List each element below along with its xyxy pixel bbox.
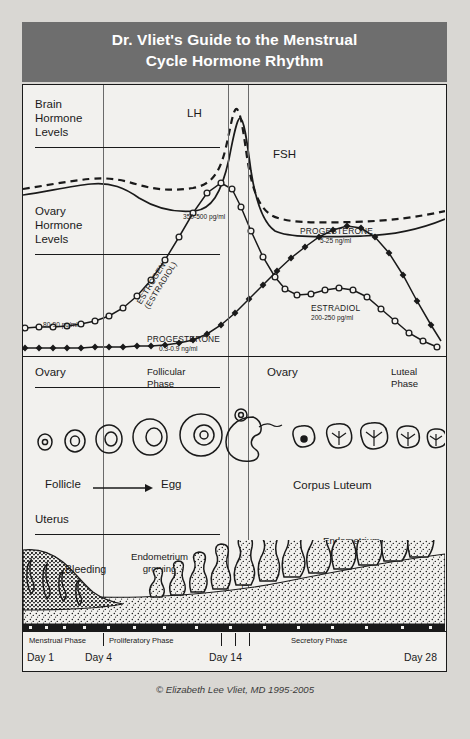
follicle-to-egg-arrow-icon bbox=[93, 482, 155, 494]
estradiol-curve bbox=[25, 183, 437, 347]
page-title: Dr. Vliet's Guide to the Menstrual Cycle… bbox=[22, 29, 447, 71]
phase-tick-ovulation-a bbox=[221, 633, 222, 646]
title-banner: Dr. Vliet's Guide to the Menstrual Cycle… bbox=[22, 22, 447, 82]
uterus-label: Uterus bbox=[35, 512, 69, 526]
progesterone-curve bbox=[25, 226, 441, 348]
day-label-1: Day 1 bbox=[27, 652, 54, 663]
progesterone-low-label: PROGESTERONE bbox=[147, 334, 220, 344]
follicle-label: Follicle bbox=[45, 477, 81, 491]
progesterone-high-label: PROGESTERONE bbox=[300, 226, 373, 236]
day-label-28: Day 28 bbox=[404, 652, 437, 663]
endometrium-diagram bbox=[23, 540, 445, 631]
copyright-notice: © Elizabeth Lee Vliet, MD 1995-2005 bbox=[0, 684, 470, 695]
bleeding-label: Bleeding bbox=[65, 563, 106, 575]
hormone-curves bbox=[23, 85, 445, 357]
ovary-hormone-section-rule bbox=[35, 254, 220, 255]
ovary-label-right: Ovary bbox=[267, 365, 298, 379]
phase-bar: Menstrual Phase Proliferatory Phase Secr… bbox=[23, 631, 446, 671]
luteal-phase-label: Luteal Phase bbox=[391, 366, 418, 390]
phase-tick-day4 bbox=[103, 633, 104, 646]
brain-hormone-levels-label: Brain Hormone Levels bbox=[35, 97, 82, 139]
progesterone-high-value: 5-25 ng/ml bbox=[320, 237, 351, 244]
page-title-line2: Cycle Hormone Rhythm bbox=[22, 50, 447, 71]
ovary-section-rule bbox=[35, 387, 220, 388]
corpus-luteum-label: Corpus Luteum bbox=[293, 478, 372, 492]
estradiol-peak-label: ESTRADIOL bbox=[311, 303, 360, 313]
chart-frame: Brain Hormone Levels LH FSH 350-500 pg/m… bbox=[22, 84, 447, 672]
ovary-hormone-levels-label: Ovary Hormone Levels bbox=[35, 204, 82, 246]
day-label-14: Day 14 bbox=[209, 652, 242, 663]
fsh-label: FSH bbox=[273, 148, 296, 160]
estradiol-baseline-value: 80-90 pg/ml bbox=[43, 321, 78, 328]
day-label-4: Day 4 bbox=[85, 652, 112, 663]
phase-label-proliferatory: Proliferatory Phase bbox=[109, 636, 174, 645]
phase-tick-ovulation-c bbox=[249, 633, 250, 646]
phase-tick-ovulation-b bbox=[235, 633, 236, 646]
follicular-phase-label: Follicular Phase bbox=[147, 366, 185, 390]
ovary-label-left: Ovary bbox=[35, 365, 66, 379]
phase-label-menstrual: Menstrual Phase bbox=[29, 636, 86, 645]
phase-label-secretory: Secretory Phase bbox=[291, 636, 347, 645]
lh-label: LH bbox=[187, 107, 202, 119]
page-title-line1: Dr. Vliet's Guide to the Menstrual bbox=[22, 29, 447, 50]
fsh-curve bbox=[23, 109, 445, 222]
egg-label: Egg bbox=[161, 477, 181, 491]
lh-peak-value: 350-500 pg/ml bbox=[183, 213, 225, 220]
lh-curve bbox=[23, 118, 445, 237]
follicle-development-diagram bbox=[23, 397, 445, 467]
infographic-page: Dr. Vliet's Guide to the Menstrual Cycle… bbox=[0, 0, 470, 739]
estradiol-peak-value: 200-250 pg/ml bbox=[311, 314, 353, 321]
estradiol-markers bbox=[23, 180, 440, 350]
uterus-section-rule bbox=[35, 534, 220, 535]
section-divider-ovary bbox=[23, 356, 446, 357]
brain-section-rule bbox=[35, 147, 220, 148]
progesterone-low-value: 0.3-0.9 ng/ml bbox=[159, 345, 197, 352]
